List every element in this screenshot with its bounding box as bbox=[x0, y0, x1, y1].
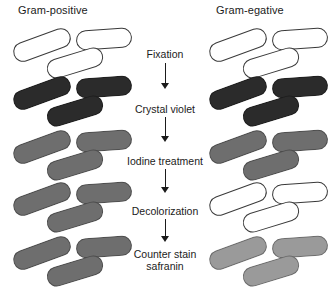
arrow-head-icon bbox=[161, 136, 169, 142]
process-arrow-4 bbox=[164, 219, 166, 242]
bacteria-cluster-gram-negative-stained-dark bbox=[206, 74, 324, 126]
column-header-gram-positive: Gram-positive bbox=[18, 4, 88, 16]
arrow-head-icon bbox=[161, 236, 169, 242]
bacterium-rod bbox=[271, 75, 328, 99]
process-step-label-4: Decolorization bbox=[110, 205, 220, 217]
bacteria-cluster-gram-negative-stained-medium bbox=[206, 128, 324, 180]
bacterium-rod bbox=[75, 181, 132, 205]
gram-staining-diagram: Gram-positive Gram-egative FixationCryst… bbox=[0, 0, 330, 295]
arrow-shaft bbox=[165, 169, 166, 188]
arrow-shaft bbox=[165, 117, 166, 137]
process-arrow-1 bbox=[164, 63, 166, 89]
bacterium-rod bbox=[75, 75, 132, 99]
bacteria-cluster-gram-positive-stained-medium bbox=[10, 128, 128, 180]
bacteria-cluster-gram-negative-safranin-stained bbox=[206, 234, 324, 286]
bacterium-rod bbox=[271, 27, 328, 51]
process-arrow-3 bbox=[164, 169, 166, 193]
process-step-label-1: Fixation bbox=[110, 48, 220, 60]
bacteria-cluster-gram-negative-decolorized bbox=[206, 180, 324, 232]
bacterium-rod bbox=[271, 129, 328, 153]
bacterium-rod bbox=[271, 235, 328, 259]
process-step-label-5: Counter stain safranin bbox=[110, 248, 220, 272]
process-arrow-2 bbox=[164, 117, 166, 142]
bacterium-rod bbox=[75, 129, 132, 153]
arrow-shaft bbox=[165, 219, 166, 237]
process-step-label-2: Crystal violet bbox=[110, 103, 220, 115]
arrow-shaft bbox=[165, 63, 166, 84]
bacterium-rod bbox=[271, 181, 328, 205]
arrow-head-icon bbox=[161, 83, 169, 89]
process-step-label-3: Iodine treatment bbox=[110, 155, 220, 167]
arrow-head-icon bbox=[161, 187, 169, 193]
bacteria-cluster-gram-positive-stained-dark bbox=[10, 74, 128, 126]
bacteria-cluster-gram-negative-unstained bbox=[206, 26, 324, 78]
column-header-gram-negative: Gram-egative bbox=[216, 4, 284, 16]
